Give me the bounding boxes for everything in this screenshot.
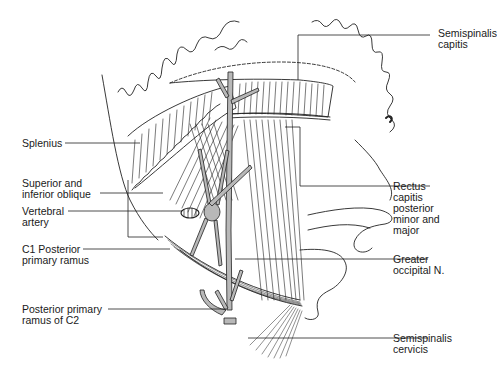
- c1-transverse: [308, 225, 370, 230]
- label-greater-occipital-nerve: Greater occipital N.: [393, 254, 444, 276]
- leader-semispinalis-capitis: [298, 35, 430, 80]
- label-posterior-primary-ramus-c2: Posterior primary ramus of C2: [22, 304, 102, 326]
- atlas-outline: [308, 208, 392, 252]
- inferior-oblique-muscle: [165, 236, 300, 300]
- label-vertebral-artery: Vertebral artery: [22, 206, 64, 228]
- leader-lines: [65, 35, 430, 338]
- leader-rectus: [285, 127, 430, 186]
- splenius-muscle: [128, 86, 236, 188]
- label-rectus-capitis-posterior: Rectus capitis posterior minor and major: [393, 181, 440, 236]
- rectus-capitis-muscles: [244, 120, 304, 300]
- semispinalis-capitis-muscle: [170, 79, 333, 117]
- label-semispinalis-cervicis: Semispinalis cervicis: [393, 333, 452, 355]
- label-superior-inferior-oblique: Superior and inferior oblique: [22, 178, 91, 200]
- scalp-edge-right: [312, 19, 395, 132]
- label-c1-posterior-primary-ramus: C1 Posterior primary ramus: [22, 244, 89, 266]
- ear-notch: [386, 116, 392, 122]
- label-semispinalis-capitis: Semispinalis capitis: [438, 28, 497, 50]
- leader-sup-inf-oblique: [100, 180, 163, 237]
- scalp-edge-mid: [215, 39, 247, 50]
- label-splenius: Splenius: [22, 138, 62, 149]
- c2-vertebra: [300, 249, 346, 319]
- skull-outline-left: [102, 75, 158, 240]
- occipital-protuberance: [355, 140, 392, 200]
- semispinalis-cervicis-muscle: [250, 305, 302, 358]
- occipital-dashed-line: [170, 62, 355, 83]
